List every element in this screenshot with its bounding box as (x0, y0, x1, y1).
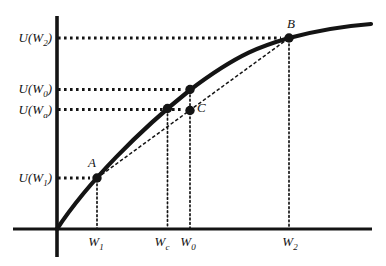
point-b-label: B (287, 16, 295, 32)
y-tick-label-u-wa: U(Wa) (19, 102, 52, 120)
point-c-dot (185, 106, 194, 115)
point-wc-curve-dot (163, 104, 172, 113)
label-text: W (282, 234, 293, 249)
label-text: ) (48, 81, 52, 96)
x-tick-label-w0: W0 (180, 234, 195, 252)
point-c-label: C (197, 100, 206, 116)
point-a-dot (92, 173, 101, 182)
label-subscript: 1 (99, 242, 104, 252)
label-subscript: c (165, 242, 169, 252)
y-tick-label-u-w1: U(W1) (19, 170, 52, 188)
label-text: ) (48, 30, 52, 45)
label-text: U(W (19, 30, 44, 45)
label-text: ) (48, 170, 52, 185)
label-text: W (180, 234, 191, 249)
y-tick-label-u-w0: U(W0) (19, 81, 52, 99)
utility-function-figure: U(W2) U(W0) U(Wa) U(W1) W1 Wc W0 W2 A B … (0, 0, 386, 266)
x-tick-label-w1: W1 (88, 234, 103, 252)
label-text: U(W (19, 102, 44, 117)
label-text: U(W (19, 170, 44, 185)
label-subscript: 0 (191, 242, 196, 252)
x-tick-label-w2: W2 (282, 234, 297, 252)
utility-curve (57, 24, 371, 229)
label-text: ) (48, 102, 52, 117)
point-w0-curve-dot (185, 85, 194, 94)
plot-canvas (0, 0, 386, 266)
x-tick-label-wc: Wc (155, 234, 170, 252)
label-text: W (155, 234, 166, 249)
point-b-dot (284, 33, 293, 42)
point-a-label: A (88, 155, 96, 171)
label-text: U(W (19, 81, 44, 96)
label-text: W (88, 234, 99, 249)
label-subscript: 2 (293, 242, 298, 252)
y-tick-label-u-w2: U(W2) (19, 30, 52, 48)
